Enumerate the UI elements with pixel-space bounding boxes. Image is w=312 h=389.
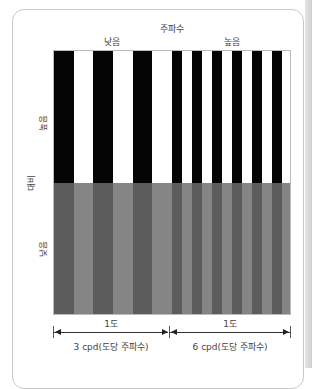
low-frequency-caption: 3 cpd(도당 주파수) — [74, 343, 149, 352]
contrast-axis-title: 대비 — [27, 175, 36, 191]
left-dimension-line — [54, 332, 168, 333]
grating-stripe — [192, 183, 202, 315]
grating-stripe — [272, 183, 282, 315]
right-span-label: 1도 — [223, 320, 237, 329]
arrowhead-left-icon — [171, 329, 177, 335]
grating-stripe — [252, 183, 262, 315]
grating-stripe — [133, 51, 153, 183]
low-frequency-label: 낮음 — [104, 38, 120, 47]
arrowhead-right-icon — [162, 329, 168, 335]
grating-stripe — [172, 183, 182, 315]
page-shadow — [305, 0, 312, 368]
low-contrast-grating — [54, 183, 291, 315]
high-frequency-label: 높음 — [224, 38, 240, 47]
high-contrast-label: 높음 — [39, 115, 48, 131]
grating-stripe — [252, 51, 262, 183]
grating-stripe — [93, 183, 113, 315]
grating-stripe — [54, 183, 74, 315]
grating-stripe — [172, 51, 182, 183]
grating-chart — [53, 50, 291, 315]
grating-stripe — [232, 51, 242, 183]
right-dimension-line — [170, 332, 290, 333]
left-span-label: 1도 — [104, 320, 118, 329]
arrowhead-left-icon — [55, 329, 61, 335]
grating-stripe — [133, 183, 153, 315]
grating-stripe — [54, 51, 74, 183]
grating-stripe — [212, 183, 222, 315]
arrowhead-right-icon — [283, 329, 289, 335]
grating-stripe — [93, 51, 113, 183]
high-contrast-grating — [54, 51, 291, 183]
frequency-axis-title: 주파수 — [160, 25, 184, 34]
grating-stripe — [272, 51, 282, 183]
right-dimension-tick — [290, 326, 291, 338]
grating-stripe — [232, 183, 242, 315]
low-contrast-label: 낮음 — [39, 241, 48, 257]
high-frequency-caption: 6 cpd(도당 주파수) — [193, 343, 268, 352]
grating-stripe — [212, 51, 222, 183]
grating-stripe — [192, 51, 202, 183]
